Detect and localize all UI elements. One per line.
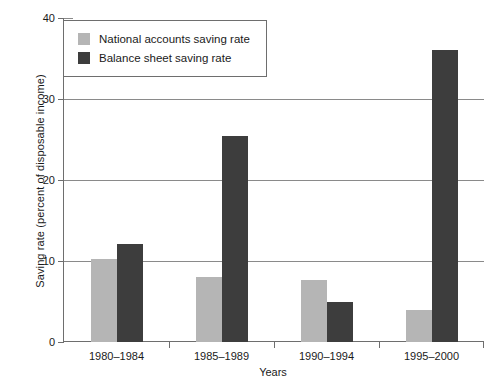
chart-legend: National accounts saving rateBalance she… — [63, 20, 267, 77]
bar — [432, 50, 458, 342]
y-tick-label-0: 0 — [49, 336, 55, 348]
x-tick-mark — [274, 341, 275, 348]
legend-label: Balance sheet saving rate — [99, 52, 231, 64]
bar — [406, 310, 432, 342]
y-tick-label-30: 30 — [43, 93, 55, 105]
bar — [327, 302, 353, 342]
y-tick-label-40: 40 — [43, 12, 55, 24]
x-tick-label-2: 1985–1989 — [194, 350, 249, 362]
bar — [301, 280, 327, 342]
legend-label: National accounts saving rate — [99, 33, 250, 45]
x-tick-label-3: 1990–1994 — [299, 350, 354, 362]
legend-item-1: National accounts saving rate — [78, 29, 250, 48]
bar — [91, 259, 117, 342]
x-axis-title: Years — [63, 366, 483, 378]
y-tick-label-20: 20 — [43, 174, 55, 186]
x-axis-end-tick — [483, 341, 484, 348]
y-tick-label-10: 10 — [43, 255, 55, 267]
y-tick-mark-0 — [58, 342, 64, 343]
legend-swatch-icon — [78, 33, 90, 45]
x-tick-mark — [379, 341, 380, 348]
bar — [117, 244, 143, 342]
x-tick-label-4: 1995–2000 — [404, 350, 459, 362]
bar — [222, 136, 248, 342]
bar-chart: Saving rate (percent of disposable incom… — [0, 0, 499, 384]
legend-item-2: Balance sheet saving rate — [78, 48, 250, 67]
x-tick-mark — [169, 341, 170, 348]
x-tick-label-1: 1980–1984 — [89, 350, 144, 362]
bar — [196, 277, 222, 342]
legend-swatch-icon — [78, 52, 90, 64]
